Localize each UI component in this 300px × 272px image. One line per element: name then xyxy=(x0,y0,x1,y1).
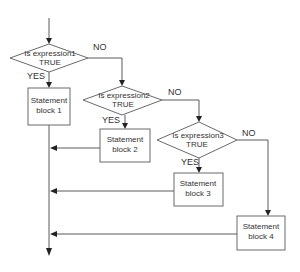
svg-text:Statement: Statement xyxy=(107,135,144,144)
decision-2-yes-label: YES xyxy=(102,115,120,125)
decision-1: Is expression1 TRUE xyxy=(10,44,88,72)
decision-2-line1: Is expression2 xyxy=(98,91,150,100)
exit-line xyxy=(46,125,52,256)
svg-text:Statement: Statement xyxy=(243,222,280,231)
flowchart-canvas: Is expression1 TRUE YES NO Statement blo… xyxy=(0,0,300,272)
decision-3: Is expression3 TRUE xyxy=(157,122,237,158)
decision-1-no-label: NO xyxy=(93,42,107,52)
decision-1-line2: TRUE xyxy=(39,58,61,67)
statement-block-1: Statement block 1 xyxy=(28,88,70,125)
return-arrow-3 xyxy=(50,188,174,194)
svg-text:block 4: block 4 xyxy=(248,232,274,241)
decision-3-no-label: NO xyxy=(242,128,256,138)
decision-1-line1: Is expression1 xyxy=(24,49,76,58)
return-arrow-4 xyxy=(50,231,237,237)
decision-2-line2: TRUE xyxy=(112,100,134,109)
decision-3-line2: TRUE xyxy=(186,140,208,149)
statement-block-4: Statement block 4 xyxy=(237,216,285,250)
statement-block-3: Statement block 3 xyxy=(174,173,223,206)
svg-text:Statement: Statement xyxy=(31,96,68,105)
decision-2: Is expression2 TRUE xyxy=(83,86,162,115)
statement-block-2: Statement block 2 xyxy=(100,129,150,162)
svg-text:block 1: block 1 xyxy=(36,106,62,115)
decision-3-line1: Is expression3 xyxy=(172,131,224,140)
entry-arrow xyxy=(46,18,52,44)
decision-2-no-label: NO xyxy=(168,87,182,97)
decision-1-yes-label: YES xyxy=(27,71,45,81)
return-arrow-2 xyxy=(50,145,100,151)
svg-text:block 3: block 3 xyxy=(185,189,211,198)
svg-text:block 2: block 2 xyxy=(112,145,138,154)
decision-3-yes-label: YES xyxy=(181,157,199,167)
svg-text:Statement: Statement xyxy=(180,179,217,188)
